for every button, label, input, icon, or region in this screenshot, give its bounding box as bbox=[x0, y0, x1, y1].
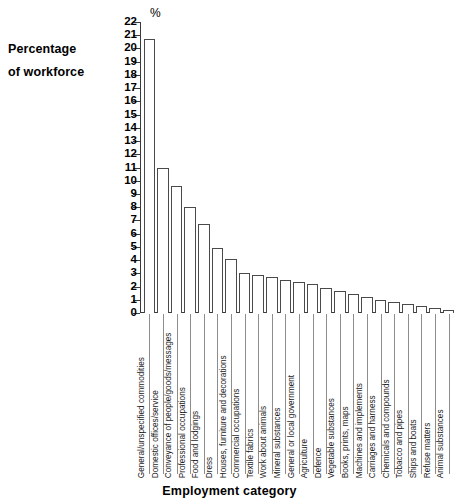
bar bbox=[361, 297, 373, 313]
y-axis-line bbox=[140, 22, 141, 313]
y-tick-label: 6 bbox=[131, 228, 137, 240]
x-tick-label: Textile fabrics bbox=[247, 428, 255, 478]
bar bbox=[402, 304, 414, 313]
y-tick-label: 0 bbox=[131, 307, 137, 319]
bar bbox=[225, 259, 237, 313]
x-tick-label: Commercial occupations bbox=[233, 388, 241, 478]
percent-unit-label: % bbox=[150, 6, 161, 20]
y-tick-label: 10 bbox=[124, 175, 137, 187]
bar bbox=[307, 284, 319, 313]
y-tick-label: 2 bbox=[131, 281, 137, 293]
y-tick-label: 15 bbox=[124, 109, 137, 121]
x-label-slot: Food and lodgings bbox=[198, 314, 210, 479]
y-tick-label: 1 bbox=[131, 294, 137, 306]
x-tick-label: Tobacco and pipes bbox=[396, 410, 404, 478]
x-tick-label: General/unspecified commodities bbox=[138, 357, 146, 478]
bar bbox=[375, 300, 387, 313]
x-tick-label: Animal substances bbox=[437, 409, 445, 478]
x-tick-label: Mineral substances bbox=[274, 407, 282, 478]
bar bbox=[334, 291, 346, 313]
x-tick-mark bbox=[449, 314, 450, 474]
bar bbox=[252, 275, 264, 313]
y-tick-label: 19 bbox=[124, 56, 137, 68]
bar bbox=[184, 207, 196, 313]
y-tick-label: 20 bbox=[124, 43, 137, 55]
x-label-slot: Animal substances bbox=[443, 314, 455, 479]
y-tick-label: 21 bbox=[124, 29, 137, 41]
x-tick-label: Defence bbox=[315, 448, 323, 479]
bar bbox=[212, 248, 224, 313]
x-tick-mark bbox=[204, 314, 205, 474]
x-tick-label: Dress bbox=[206, 457, 214, 478]
y-tick-label: 13 bbox=[124, 135, 137, 147]
x-tick-label: General or local government bbox=[287, 375, 295, 478]
x-axis-title: Employment category bbox=[0, 484, 459, 498]
y-tick-label: 3 bbox=[131, 268, 137, 280]
y-tick-label: 18 bbox=[124, 69, 137, 81]
x-tick-label: Food and lodgings bbox=[192, 411, 200, 478]
x-tick-label: Machines and implements bbox=[355, 383, 363, 478]
x-tick-label: Professional occupations bbox=[179, 387, 187, 478]
y-tick-label: 8 bbox=[131, 201, 137, 213]
bar bbox=[280, 280, 292, 313]
y-tick-label: 17 bbox=[124, 82, 137, 94]
x-tick-label: Agriculture bbox=[301, 439, 309, 478]
y-tick-label: 22 bbox=[124, 16, 137, 28]
bar bbox=[239, 273, 251, 313]
bar bbox=[144, 39, 156, 313]
y-tick-label: 12 bbox=[124, 149, 137, 161]
x-axis-category-labels: General/unspecified commoditiesDomestic … bbox=[140, 314, 453, 479]
x-tick-label: Chemicals and compounds bbox=[383, 379, 391, 478]
y-tick-label: 7 bbox=[131, 215, 137, 227]
y-tick-label: 14 bbox=[124, 122, 137, 134]
chart-plot-area: % 012345678910111213141516171819202122 bbox=[140, 22, 453, 313]
y-axis-title-line2: of workforce bbox=[8, 61, 120, 84]
bar bbox=[429, 308, 441, 313]
x-tick-label: Vegetable substances bbox=[328, 398, 336, 478]
y-axis-title-line1: Percentage bbox=[8, 38, 120, 61]
bar bbox=[320, 288, 332, 313]
y-tick-label: 16 bbox=[124, 96, 137, 108]
y-axis-title: Percentage of workforce bbox=[8, 38, 120, 84]
x-tick-label: Ships and boats bbox=[410, 419, 418, 478]
bar bbox=[266, 277, 278, 313]
x-tick-label: Carriages and harness bbox=[369, 395, 377, 478]
y-tick-label: 11 bbox=[125, 162, 137, 174]
x-tick-label: Conveyance of people/goods/messages bbox=[165, 332, 173, 478]
y-tick-label: 5 bbox=[131, 241, 137, 253]
x-tick-label: Work about animals bbox=[260, 406, 268, 478]
x-tick-label: Domestic offices/service bbox=[151, 390, 159, 478]
bar bbox=[388, 302, 400, 313]
y-tick-label: 4 bbox=[131, 254, 137, 266]
y-tick-label: 9 bbox=[131, 188, 137, 200]
x-tick-label: Books, prints, maps bbox=[342, 406, 350, 478]
bar bbox=[198, 224, 210, 313]
bar bbox=[171, 186, 183, 313]
bar bbox=[416, 306, 428, 313]
bar bbox=[443, 310, 455, 313]
x-tick-label: Houses, furniture and decorations bbox=[219, 355, 227, 478]
bar bbox=[293, 282, 305, 313]
bar bbox=[157, 168, 169, 314]
x-tick-label: Refuse matters bbox=[423, 422, 431, 478]
bar bbox=[348, 294, 360, 313]
